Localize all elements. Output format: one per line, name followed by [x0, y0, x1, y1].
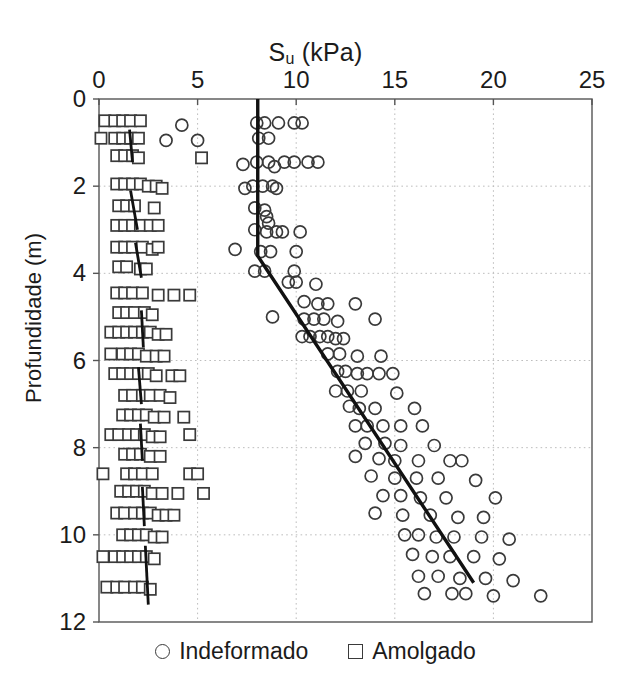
data-point-circle — [448, 531, 460, 543]
data-point-circle — [334, 348, 346, 360]
data-point-circle — [397, 509, 409, 521]
data-point-square — [158, 351, 169, 362]
data-point-square — [178, 412, 189, 423]
data-point-circle — [369, 313, 381, 325]
data-point-circle — [456, 455, 468, 467]
legend-entry-indeformado: Indeformado — [155, 638, 308, 665]
data-point-square — [157, 183, 168, 194]
data-point-circle — [239, 182, 251, 194]
data-point-square — [95, 133, 106, 144]
square-marker-icon — [348, 644, 363, 659]
legend-label-amolgado: Amolgado — [372, 638, 476, 665]
legend-label-indeformado: Indeformado — [179, 638, 308, 665]
data-point-square — [149, 553, 160, 564]
grid-layer — [99, 99, 592, 622]
data-point-circle — [296, 117, 308, 129]
data-point-circle — [468, 551, 480, 563]
data-point-circle — [270, 182, 282, 194]
data-point-square — [97, 468, 108, 479]
data-point-circle — [369, 402, 381, 414]
data-point-circle — [454, 572, 466, 584]
data-point-circle — [369, 507, 381, 519]
data-point-circle — [412, 570, 424, 582]
data-point-circle — [355, 385, 367, 397]
trend-lines-layer — [130, 99, 474, 605]
data-point-square — [153, 242, 164, 253]
data-point-circle — [340, 365, 352, 377]
data-point-square — [133, 152, 144, 163]
data-point-circle — [409, 402, 421, 414]
data-point-square — [133, 133, 144, 144]
data-point-circle — [489, 492, 501, 504]
figure-scatter-su-profundidade: Su (kPa) Profundidade (m) 0510152025 024… — [0, 0, 631, 696]
data-point-circle — [387, 368, 399, 380]
data-point-circle — [395, 439, 407, 451]
data-point-circle — [480, 572, 492, 584]
chart-legend: Indeformado Amolgado — [0, 638, 631, 665]
data-point-circle — [288, 265, 300, 277]
y-tick-label-12: 12 — [38, 608, 86, 636]
data-point-circle — [426, 551, 438, 563]
data-point-square — [184, 429, 195, 440]
data-point-circle — [160, 134, 172, 146]
data-point-circle — [470, 474, 482, 486]
data-point-circle — [395, 420, 407, 432]
data-point-circle — [444, 455, 456, 467]
data-point-circle — [416, 420, 428, 432]
data-point-square — [135, 115, 146, 126]
data-point-square — [155, 431, 166, 442]
legend-entry-amolgado: Amolgado — [348, 638, 476, 665]
x-tick-label-0: 0 — [92, 66, 105, 94]
data-point-circle — [487, 590, 499, 602]
data-point-square — [105, 348, 116, 359]
data-point-circle — [476, 531, 488, 543]
data-point-circle — [375, 350, 387, 362]
x-tick-label-10: 10 — [283, 66, 310, 94]
data-point-circle — [322, 331, 334, 343]
data-point-circle — [349, 298, 361, 310]
data-point-circle — [493, 553, 505, 565]
data-point-circle — [391, 387, 403, 399]
data-point-circle — [377, 420, 389, 432]
data-point-circle — [478, 511, 490, 523]
data-point-square — [147, 309, 158, 320]
y-tick-label-4: 4 — [38, 259, 86, 287]
data-point-circle — [432, 472, 444, 484]
data-point-circle — [349, 420, 361, 432]
data-point-square — [198, 488, 209, 499]
data-point-square — [149, 202, 160, 213]
data-point-circle — [399, 529, 411, 541]
data-point-circle — [290, 246, 302, 258]
data-point-square — [157, 488, 168, 499]
x-tick-label-25: 25 — [579, 66, 606, 94]
data-point-circle — [377, 490, 389, 502]
data-point-circle — [428, 439, 440, 451]
y-tick-label-8: 8 — [38, 434, 86, 462]
data-point-square — [153, 290, 164, 301]
y-tick-label-0: 0 — [38, 85, 86, 113]
data-point-circle — [351, 350, 363, 362]
data-point-square — [158, 412, 169, 423]
data-point-circle — [359, 437, 371, 449]
data-point-square — [168, 510, 179, 521]
data-point-square — [196, 152, 207, 163]
trend-line-amolgado-seg-6 — [140, 424, 142, 461]
data-point-circle — [446, 588, 458, 600]
data-point-circle — [410, 472, 422, 484]
data-point-circle — [460, 588, 472, 600]
data-point-circle — [310, 278, 322, 290]
data-point-square — [184, 290, 195, 301]
trend-line-amolgado-seg-4 — [141, 310, 143, 347]
data-point-circle — [294, 226, 306, 238]
x-tick-label-15: 15 — [381, 66, 408, 94]
data-point-square — [164, 392, 175, 403]
y-tick-label-6: 6 — [38, 347, 86, 375]
trend-line-amolgado-seg-7 — [142, 487, 144, 526]
plot-canvas — [0, 0, 631, 696]
data-point-circle — [237, 158, 249, 170]
data-point-circle — [452, 511, 464, 523]
data-point-circle — [412, 529, 424, 541]
data-point-circle — [418, 588, 430, 600]
y-tick-label-10: 10 — [38, 521, 86, 549]
data-point-circle — [440, 492, 452, 504]
